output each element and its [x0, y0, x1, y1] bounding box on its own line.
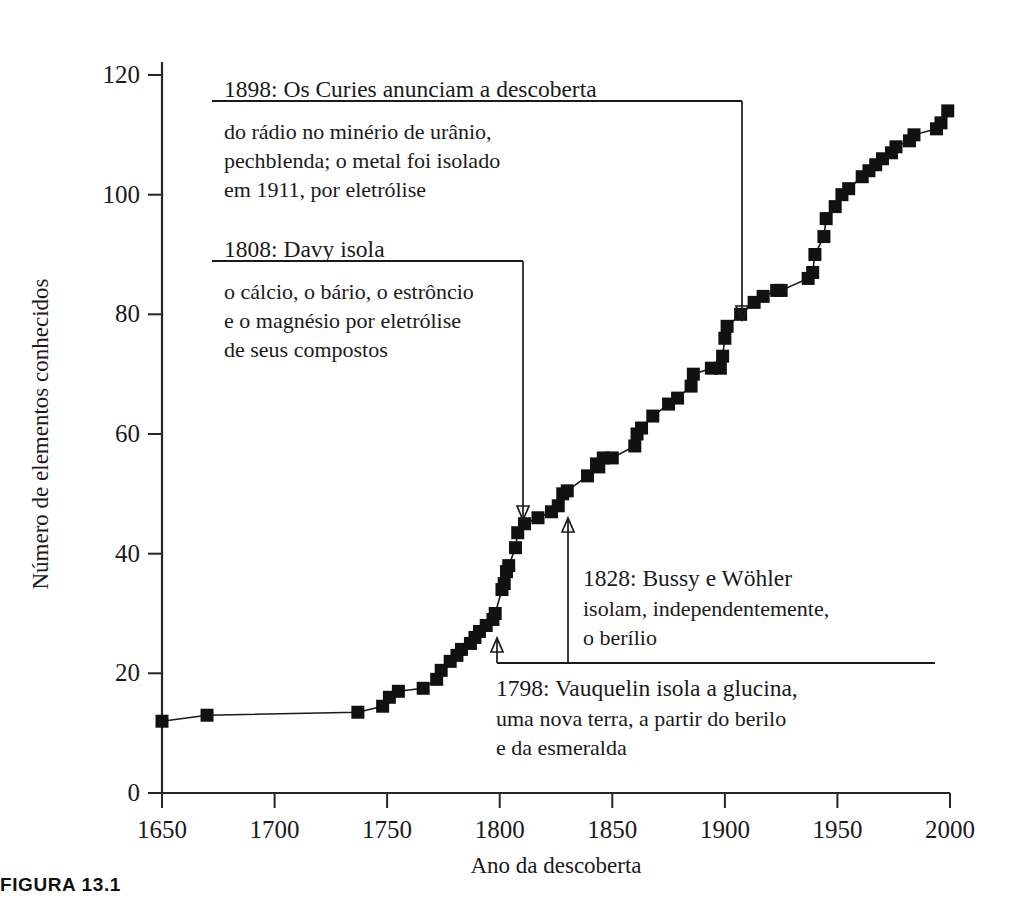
data-point-marker: [934, 116, 947, 129]
data-point-marker: [820, 212, 833, 225]
data-point-marker: [581, 469, 594, 482]
y-tick-label-0: 0: [128, 779, 141, 806]
y-axis: 0 20 40 60 80 100 120 Número de elemento…: [28, 61, 162, 806]
annotation-1808-body-line-3: de seus compostos: [224, 335, 474, 364]
data-point-marker: [531, 511, 544, 524]
annotation-1898-body-line-3: em 1911, por eletrólise: [224, 175, 597, 204]
data-point-marker: [671, 392, 684, 405]
annotation-1798-body: uma nova terra, a partir do berilo e da …: [496, 704, 798, 763]
data-point-marker: [829, 200, 842, 213]
data-point-marker: [561, 484, 574, 497]
data-point-marker: [716, 350, 729, 363]
x-axis-ticks: [162, 793, 950, 808]
data-point-marker: [714, 362, 727, 375]
x-tick-label-1750: 1750: [362, 816, 412, 843]
y-axis-tick-labels: 0 20 40 60 80 100 120: [103, 61, 141, 806]
data-point-marker: [417, 682, 430, 695]
data-point-marker: [628, 439, 641, 452]
y-tick-label-100: 100: [103, 181, 141, 208]
figure-caption: FIGURA 13.1: [0, 874, 121, 896]
data-point-marker: [842, 182, 855, 195]
data-point-marker: [392, 685, 405, 698]
data-point-marker: [808, 248, 821, 261]
annotation-1898: 1898: Os Curies anunciam a descoberta do…: [224, 74, 597, 204]
x-axis: 1650 1700 1750 1800 1850 1900 1950 2000 …: [137, 793, 975, 878]
figure-root: 0 20 40 60 80 100 120 Número de elemento…: [0, 0, 1022, 914]
y-tick-label-60: 60: [115, 420, 140, 447]
annotation-1828-body-line-2: o berílio: [583, 623, 829, 652]
annotation-1898-head: 1898: Os Curies anunciam a descoberta: [224, 74, 597, 105]
data-point-marker: [687, 368, 700, 381]
data-point-marker: [718, 332, 731, 345]
data-point-marker: [635, 422, 648, 435]
annotation-1808: 1808: Davy isola o cálcio, o bário, o es…: [224, 234, 474, 364]
y-tick-label-80: 80: [115, 300, 140, 327]
x-axis-title: Ano da descoberta: [470, 853, 641, 878]
annotation-1828-head: 1828: Bussy e Wöhler: [583, 563, 829, 594]
data-point-marker: [775, 284, 788, 297]
data-point-marker: [606, 451, 619, 464]
y-axis-title: Número de elementos conhecidos: [28, 278, 53, 589]
data-point-marker: [907, 128, 920, 141]
y-tick-label-120: 120: [103, 61, 141, 88]
annotation-1798-head: 1798: Vauquelin isola a glucina,: [496, 673, 798, 704]
y-axis-ticks: [148, 75, 162, 793]
data-point-marker: [806, 266, 819, 279]
annotation-1828-body: isolam, independentemente, o berílio: [583, 594, 829, 653]
data-point-marker: [721, 320, 734, 333]
x-tick-label-1650: 1650: [137, 816, 187, 843]
data-point-marker: [941, 104, 954, 117]
annotation-1798: 1798: Vauquelin isola a glucina, uma nov…: [496, 673, 798, 762]
x-axis-tick-labels: 1650 1700 1750 1800 1850 1900 1950 2000: [137, 816, 975, 843]
data-point-marker: [351, 706, 364, 719]
data-point-marker: [156, 715, 169, 728]
data-point-marker: [201, 709, 214, 722]
annotation-1808-body-line-2: e o magnésio por eletrólise: [224, 306, 474, 335]
annotation-1828: 1828: Bussy e Wöhler isolam, independent…: [583, 563, 829, 652]
y-tick-label-20: 20: [115, 659, 140, 686]
data-point-marker: [498, 577, 511, 590]
x-tick-label-1900: 1900: [700, 816, 750, 843]
data-point-marker: [817, 230, 830, 243]
leader-1828: [562, 518, 574, 663]
data-point-marker: [646, 410, 659, 423]
annotation-1798-body-line-2: e da esmeralda: [496, 733, 798, 762]
data-point-marker: [889, 140, 902, 153]
data-point-marker: [552, 499, 565, 512]
annotation-1898-body: do rádio no minério de urânio, pechblend…: [224, 117, 597, 205]
x-tick-label-2000: 2000: [925, 816, 975, 843]
data-point-marker: [518, 517, 531, 530]
annotation-1808-head: 1808: Davy isola: [224, 234, 474, 265]
data-point-marker: [757, 290, 770, 303]
annotation-1798-body-line-1: uma nova terra, a partir do berilo: [496, 704, 798, 733]
data-point-marker: [685, 380, 698, 393]
annotation-1808-body: o cálcio, o bário, o estrôncio e o magné…: [224, 277, 474, 365]
x-tick-label-1700: 1700: [250, 816, 300, 843]
x-tick-label-1800: 1800: [475, 816, 525, 843]
annotation-1828-body-line-1: isolam, independentemente,: [583, 594, 829, 623]
x-tick-label-1950: 1950: [812, 816, 862, 843]
annotation-1898-body-line-1: do rádio no minério de urânio,: [224, 117, 597, 146]
y-tick-label-40: 40: [115, 540, 140, 567]
annotation-1898-body-line-2: pechblenda; o metal foi isolado: [224, 146, 597, 175]
data-point-marker: [489, 607, 502, 620]
data-point-marker: [509, 541, 522, 554]
data-point-marker: [502, 559, 515, 572]
x-tick-label-1850: 1850: [587, 816, 637, 843]
annotation-1808-body-line-1: o cálcio, o bário, o estrôncio: [224, 277, 474, 306]
